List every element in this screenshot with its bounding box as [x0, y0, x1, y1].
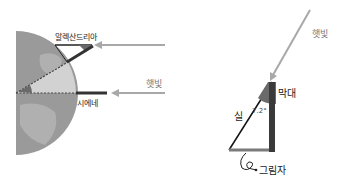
pointer-dot-icon	[255, 169, 258, 172]
arrowhead-icon	[111, 89, 119, 97]
label-stick: 막대	[278, 88, 296, 99]
label-string: 실	[234, 111, 243, 122]
shadow-pointer-icon	[241, 153, 256, 170]
label-sunlight-left: 햇빛	[146, 78, 162, 89]
label-alexandria: 알렉산드리아	[55, 32, 98, 42]
stick	[269, 82, 275, 152]
alexandria-stick	[67, 46, 93, 62]
label-syene: 시에네	[77, 99, 98, 108]
sun-arrow-diagonal	[273, 10, 310, 75]
stick-diagram: 햇빛 막대 실 7.2° 그림자	[229, 10, 328, 176]
diagram-canvas: 알렉산드리아 시에네 햇빛 햇빛 막대 실 7.2° 그림자	[0, 0, 345, 186]
globe-diagram: 알렉산드리아 시에네 햇빛	[0, 31, 165, 155]
label-sunlight-right: 햇빛	[312, 28, 328, 39]
label-shadow: 그림자	[259, 165, 286, 176]
arrowhead-icon	[94, 41, 102, 49]
label-angle: 7.2°	[252, 107, 267, 115]
